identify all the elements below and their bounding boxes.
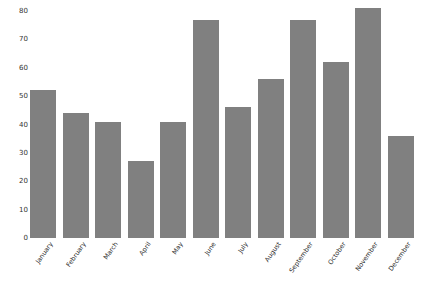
x-axis-tick-label: February [65, 241, 87, 268]
bar [258, 79, 284, 238]
x-axis-tick-label: November [355, 241, 380, 272]
y-axis-tick-label: 70 [0, 36, 28, 43]
y-axis-tick-label: 40 [0, 121, 28, 128]
bar [193, 20, 219, 238]
bar [63, 113, 89, 238]
y-axis-tick-label: 80 [0, 8, 28, 15]
x-axis-tick-label: August [263, 241, 281, 263]
bar [323, 62, 349, 238]
x-axis-tick-label: July [237, 241, 249, 254]
bar [355, 8, 381, 238]
plot-area: 01020304050607080JanuaryFebruaryMarchApr… [0, 0, 425, 281]
x-axis-tick-label: January [35, 241, 54, 265]
x-axis-tick-label: March [103, 241, 120, 261]
y-axis-tick-label: 0 [0, 235, 28, 242]
x-axis-tick-label: June [203, 241, 216, 256]
bar [30, 90, 56, 238]
x-axis-tick-label: May [171, 241, 184, 256]
bar [160, 122, 186, 238]
bar [128, 161, 154, 238]
bar [388, 136, 414, 238]
x-axis-tick-label: October [327, 241, 347, 266]
y-axis-tick-label: 20 [0, 178, 28, 185]
y-axis-tick-label: 60 [0, 64, 28, 71]
y-axis-tick-label: 30 [0, 149, 28, 156]
x-axis-tick-label: September [288, 241, 314, 274]
x-axis-tick-label: December [387, 241, 412, 272]
y-axis-tick-label: 10 [0, 206, 28, 213]
bar [225, 107, 251, 238]
bar [95, 122, 121, 238]
bar [290, 20, 316, 238]
x-axis-tick-label: April [138, 241, 152, 257]
y-axis-tick-label: 50 [0, 93, 28, 100]
bar-chart: 01020304050607080JanuaryFebruaryMarchApr… [0, 0, 425, 281]
